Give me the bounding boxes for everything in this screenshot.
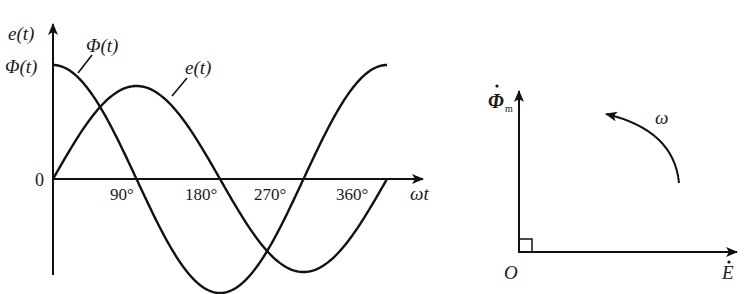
- e-phasor-label: E: [721, 262, 734, 283]
- diagram-canvas: e(t) Φ(t) Φ(t) e(t) 0 90° 180° 270° 360°…: [0, 0, 746, 294]
- phi-leader-line: [78, 55, 92, 73]
- phasor-diagram: Φ m E O ω: [488, 84, 737, 283]
- phi-m-dot: [495, 84, 498, 87]
- phasor-origin-label: O: [504, 262, 518, 283]
- origin-zero-label: 0: [35, 170, 44, 190]
- phi-curve-label: Φ(t): [86, 35, 118, 57]
- e-phasor-dot: [727, 260, 730, 263]
- e-curve-label: e(t): [185, 57, 211, 79]
- tick-90: 90°: [110, 185, 134, 204]
- y-max-label: Φ(t): [5, 56, 37, 78]
- tick-270: 270°: [254, 185, 286, 204]
- tick-360: 360°: [336, 185, 368, 204]
- right-angle-marker: [519, 239, 532, 252]
- y-axis-label: e(t): [8, 23, 34, 45]
- tick-180: 180°: [185, 185, 217, 204]
- e-leader-line: [172, 78, 187, 96]
- waveform-chart: e(t) Φ(t) Φ(t) e(t) 0 90° 180° 270° 360°…: [5, 23, 429, 293]
- omega-label: ω: [655, 107, 668, 128]
- phi-m-subscript: m: [505, 103, 513, 114]
- x-axis-label: ωt: [410, 183, 429, 204]
- phi-m-label: Φ: [488, 90, 504, 112]
